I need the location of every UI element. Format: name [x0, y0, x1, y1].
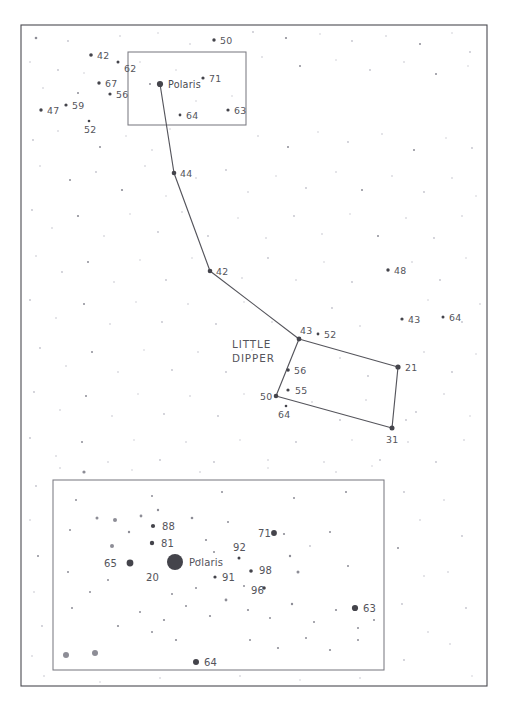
background-star	[239, 439, 240, 440]
background-star	[447, 571, 449, 573]
background-star	[225, 371, 227, 373]
star-number-label: 43	[300, 325, 312, 336]
star-98	[249, 569, 253, 573]
star-number-label: 64	[186, 110, 198, 121]
background-star	[57, 69, 59, 71]
constellation-line-segment	[160, 84, 174, 173]
star-number-label: 56	[116, 89, 128, 100]
star-number-label: 67	[105, 78, 117, 89]
background-star	[427, 631, 429, 633]
background-star	[113, 518, 117, 522]
background-star	[133, 439, 134, 440]
star-number-label: 62	[124, 63, 136, 74]
star-81	[150, 541, 154, 545]
background-star	[169, 128, 170, 129]
star-number-label: 64	[449, 312, 461, 323]
star-71	[271, 530, 277, 536]
background-star	[299, 65, 301, 67]
background-star	[239, 675, 241, 677]
background-star	[137, 393, 138, 394]
background-star	[293, 215, 295, 217]
background-star	[435, 73, 437, 75]
background-star	[433, 237, 435, 239]
background-star	[225, 599, 228, 602]
background-star	[51, 227, 53, 229]
background-star	[351, 40, 353, 42]
background-star	[165, 279, 167, 281]
background-star	[243, 301, 244, 302]
star-64	[285, 405, 288, 408]
background-star	[151, 495, 153, 497]
background-star	[415, 411, 417, 413]
background-star	[67, 40, 69, 42]
background-star	[75, 499, 77, 501]
background-star	[181, 211, 183, 213]
background-star	[309, 545, 311, 547]
background-star	[29, 61, 31, 63]
star-number-label: 64	[278, 409, 290, 420]
background-star	[215, 323, 217, 325]
background-star	[139, 61, 140, 62]
background-star	[411, 261, 413, 263]
background-star	[351, 281, 353, 283]
background-star	[339, 419, 341, 421]
star-59	[64, 103, 67, 106]
background-star	[403, 491, 405, 493]
background-star	[347, 141, 349, 143]
background-star	[347, 565, 349, 567]
background-star	[423, 191, 425, 193]
background-star	[33, 591, 35, 593]
star-number-label: 59	[72, 100, 84, 111]
background-star	[42, 87, 44, 89]
background-star	[99, 146, 101, 148]
background-star	[109, 323, 111, 325]
star-number-label: 88	[162, 521, 175, 532]
star-number-label: 52	[84, 124, 96, 135]
background-star	[469, 415, 470, 416]
background-star	[261, 56, 263, 58]
background-star	[267, 459, 269, 461]
background-star	[319, 33, 320, 34]
background-star	[31, 655, 33, 657]
star-50	[212, 38, 215, 41]
background-star	[379, 459, 381, 461]
star-number-label: 63	[234, 105, 246, 116]
star-number-label: 50	[220, 35, 232, 46]
background-star	[243, 585, 245, 587]
background-star	[69, 529, 71, 531]
background-star	[35, 485, 37, 487]
background-star	[165, 195, 166, 196]
background-star	[199, 471, 201, 473]
background-star	[443, 393, 445, 395]
background-star	[135, 301, 136, 302]
background-star	[217, 415, 219, 417]
star-number-label: 56	[294, 365, 306, 376]
background-star	[149, 83, 151, 85]
background-star	[185, 441, 187, 443]
background-star	[335, 609, 337, 611]
background-star	[403, 61, 405, 63]
background-star	[92, 650, 98, 656]
background-star	[381, 133, 383, 135]
star-44	[172, 171, 177, 176]
background-star	[299, 679, 300, 680]
background-star	[479, 303, 481, 305]
constellation-line-segment	[210, 271, 299, 339]
background-star	[335, 171, 337, 173]
background-star	[311, 401, 313, 403]
background-star	[367, 375, 369, 377]
background-star	[83, 303, 85, 305]
background-star	[391, 175, 393, 177]
background-star	[443, 499, 445, 501]
background-star	[139, 259, 140, 260]
background-star	[369, 69, 371, 71]
star-number-label: 96	[251, 585, 264, 596]
background-star	[55, 455, 57, 457]
background-star	[163, 619, 165, 621]
background-star	[96, 517, 99, 520]
background-star	[103, 235, 105, 237]
background-star	[59, 467, 61, 469]
background-star	[403, 659, 405, 661]
background-star	[213, 551, 215, 553]
background-star	[139, 611, 141, 613]
